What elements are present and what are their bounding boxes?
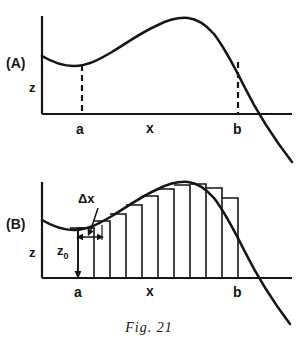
panel-a-z-axis-label: z — [29, 80, 36, 95]
riemann-bar — [158, 189, 174, 278]
panel-b-z-axis-label: z — [29, 245, 36, 260]
panel-a-x-axis-label: x — [146, 120, 154, 136]
riemann-bar — [206, 188, 222, 278]
riemann-bar — [142, 196, 158, 278]
riemann-bar — [222, 198, 238, 278]
panel-a-curve — [42, 18, 292, 162]
z0-label: z0 — [57, 243, 69, 261]
panel-b-marker-b-label: b — [233, 284, 242, 300]
riemann-bar — [174, 185, 190, 278]
delta-x-label: Δx — [78, 191, 95, 206]
riemann-bar — [126, 205, 142, 278]
z0-label-subscript: 0 — [64, 251, 69, 261]
panel-a-plot — [0, 0, 298, 172]
riemann-bar — [190, 184, 206, 278]
figure-21: (A) z a b x (B) — [0, 0, 298, 345]
riemann-bar — [110, 214, 126, 278]
panel-a-marker-b-label: b — [233, 121, 242, 137]
panel-b-marker-a-label: a — [74, 284, 82, 300]
panel-b-plot — [0, 170, 298, 345]
panel-b-x-axis-label: x — [146, 283, 154, 299]
figure-caption: Fig. 21 — [0, 320, 298, 336]
panel-a-marker-a-label: a — [76, 121, 84, 137]
